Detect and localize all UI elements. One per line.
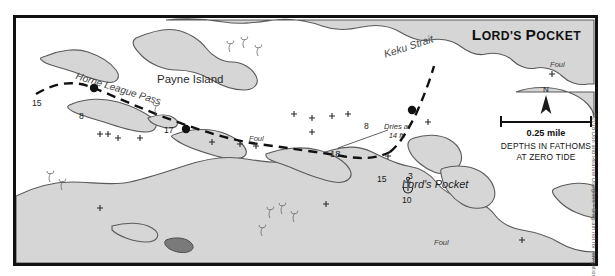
- chart-frame: LORD'S POCKET Payne Island Keku Strait H…: [13, 15, 598, 266]
- landmass-northwest-islet: [40, 50, 118, 82]
- north-arrow-icon: [539, 95, 553, 115]
- chart-legend: N 0.25 mile DEPTHS IN FATHOMS AT ZERO TI…: [487, 86, 605, 162]
- scale-bar-value: 0.25 mile: [487, 128, 605, 138]
- depth-note-line-2: AT ZERO TIDE: [516, 152, 575, 162]
- dries-at-leader-line: [338, 130, 388, 148]
- landmass-south-peninsula: [16, 147, 594, 263]
- scale-bar-rule: [500, 121, 592, 123]
- scale-bar-tick-left: [500, 116, 502, 127]
- depth-units-note: DEPTHS IN FATHOMS AT ZERO TIDE: [487, 141, 605, 162]
- landmass-payne-island: [133, 19, 594, 90]
- depth-note-line-1: DEPTHS IN FATHOMS: [501, 141, 591, 151]
- scale-bar-graphic: [500, 116, 592, 127]
- north-letter: N: [543, 85, 549, 94]
- north-arrow-group: N: [487, 86, 605, 113]
- nautical-chart-diagram: LORD'S POCKET Payne Island Keku Strait H…: [0, 0, 615, 276]
- copyright-credit: ©2018 Don and Réanne Douglass • Diagram …: [591, 113, 597, 273]
- landmass-mid-islet-chain: [68, 99, 247, 159]
